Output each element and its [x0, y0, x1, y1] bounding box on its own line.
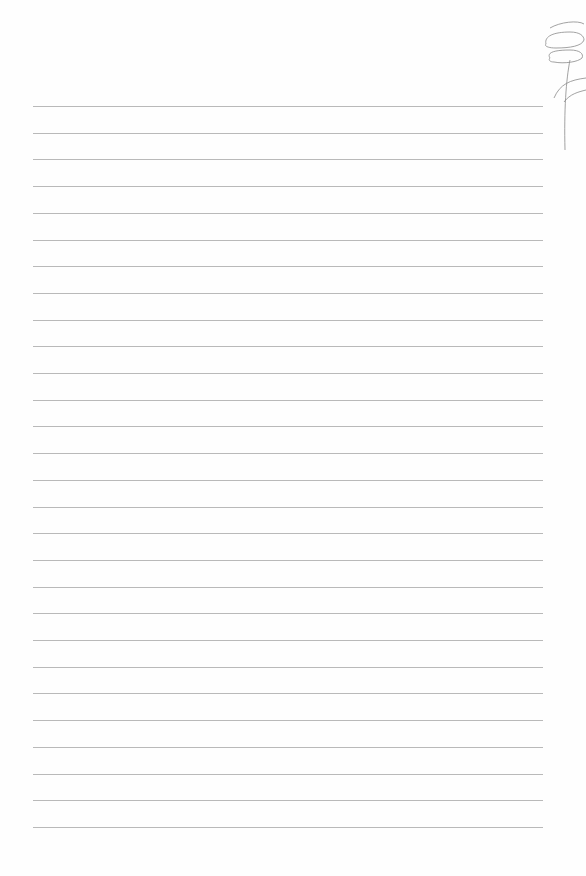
- ruled-line: [33, 373, 543, 374]
- ruled-line: [33, 320, 543, 321]
- ruled-line: [33, 720, 543, 721]
- ruled-line: [33, 560, 543, 561]
- ruled-line: [33, 827, 543, 828]
- ruled-line: [33, 453, 543, 454]
- ruled-line: [33, 266, 543, 267]
- ruled-line: [33, 106, 543, 107]
- ruled-line: [33, 213, 543, 214]
- ruled-line: [33, 426, 543, 427]
- ruled-line: [33, 507, 543, 508]
- ruled-line: [33, 240, 543, 241]
- ruled-line: [33, 693, 543, 694]
- pencil-sketch-icon: [540, 10, 586, 150]
- ruled-line: [33, 800, 543, 801]
- ruled-line: [33, 293, 543, 294]
- ruled-line: [33, 533, 543, 534]
- ruled-line: [33, 587, 543, 588]
- ruled-line: [33, 747, 543, 748]
- ruled-line: [33, 159, 543, 160]
- ruled-line: [33, 640, 543, 641]
- lined-paper-page: [0, 0, 586, 876]
- ruled-lines: [0, 0, 586, 876]
- ruled-line: [33, 667, 543, 668]
- ruled-line: [33, 186, 543, 187]
- ruled-line: [33, 480, 543, 481]
- ruled-line: [33, 774, 543, 775]
- ruled-line: [33, 346, 543, 347]
- ruled-line: [33, 613, 543, 614]
- ruled-line: [33, 133, 543, 134]
- ruled-line: [33, 400, 543, 401]
